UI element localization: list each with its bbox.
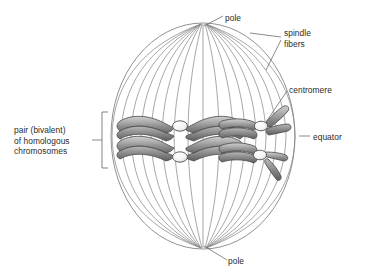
centromere-oval (173, 152, 188, 162)
centromere-oval (253, 150, 266, 160)
chromosome-right-upper-arms (266, 106, 291, 135)
centromere-oval (173, 121, 188, 131)
chromosome-right-lower-arms (265, 152, 288, 180)
label-bivalent-line3: chromosomes (14, 146, 70, 157)
bivalent-bracket (102, 112, 108, 168)
label-bivalent-line2: of homologous (14, 136, 70, 147)
leader-pole-top (204, 16, 223, 26)
label-pole-top: pole (225, 13, 241, 24)
meiosis-diagram: pole pole spindle fibers centromere equa… (0, 0, 365, 280)
chromosome-right-upper-left (219, 119, 257, 139)
chromosome-right-lower-left (219, 143, 257, 163)
label-bivalent-line1: pair (bivalent) (14, 125, 70, 136)
leader-spindle-a (250, 33, 281, 37)
label-bivalent: pair (bivalent) of homologous chromosome… (14, 125, 70, 157)
label-pole-bottom: pole (228, 256, 244, 267)
label-spindle-line1: spindle (284, 28, 311, 39)
leader-spindle-b (266, 40, 281, 70)
label-spindle-fibers: spindle fibers (284, 28, 311, 49)
label-centromere: centromere (289, 85, 332, 96)
label-spindle-line2: fibers (284, 39, 311, 50)
centromere-oval (254, 121, 267, 131)
label-equator: equator (313, 132, 342, 143)
